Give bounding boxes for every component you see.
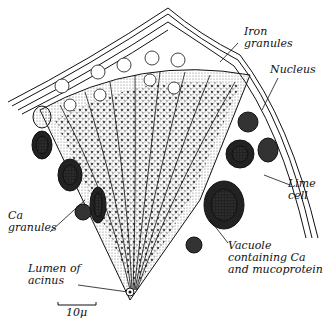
label-vacuole: Vacuole containing Ca and mucoprotein xyxy=(228,240,323,276)
label-ca-granules: Ca granules xyxy=(8,210,57,234)
label-lumen: Lumen of acinus xyxy=(28,263,81,287)
label-iron-granules: Iron granules xyxy=(244,26,293,50)
scale-bar xyxy=(58,302,96,305)
label-lime-cell: Lime cell xyxy=(288,178,316,202)
label-nucleus: Nucleus xyxy=(270,64,316,76)
label-scale: 10μ xyxy=(66,307,87,319)
